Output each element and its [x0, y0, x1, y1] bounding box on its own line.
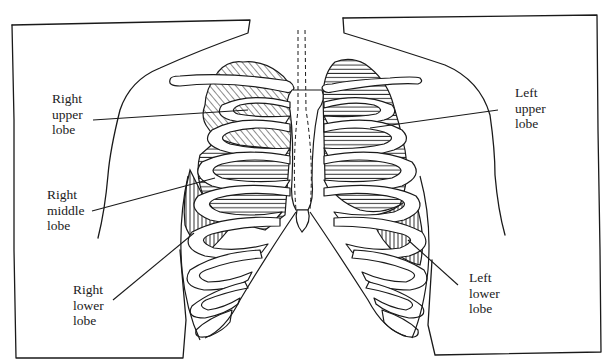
label-right-upper-lobe: Right upper lobe: [52, 91, 83, 138]
xiphoid-process: [296, 210, 309, 232]
label-left-lower-lobe: Left lower lobe: [469, 270, 500, 317]
label-left-upper-lobe: Left upper lobe: [515, 85, 546, 132]
sternum: [287, 90, 323, 210]
thorax-lung-lobes-diagram: Right upper lobe Right middle lobe Right…: [0, 0, 610, 363]
label-right-lower-lobe: Right lower lobe: [73, 282, 104, 329]
label-right-middle-lobe: Right middle lobe: [47, 187, 85, 234]
